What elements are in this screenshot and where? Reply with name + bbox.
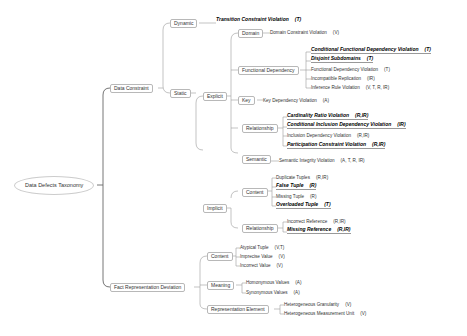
- leaf-incorrect-value: Incorrect Value(V): [240, 262, 283, 269]
- leaf-participation-constraint-violation: Participation Constraint Violation(R,IR): [287, 141, 385, 149]
- node-data-constraint[interactable]: Data Constraint: [110, 84, 153, 93]
- node-semantic[interactable]: Semantic: [242, 155, 271, 164]
- node-frd-content[interactable]: Content: [207, 252, 233, 261]
- node-dynamic[interactable]: Dynamic: [170, 19, 197, 28]
- leaf-domain-constraint-violation: Domain Constraint Violation(V): [270, 29, 339, 36]
- leaf-synonymous-values: Synonymous Values(A): [246, 289, 300, 296]
- leaf-heterogeneous-measurement-unit: Heterogeneous Measurement Unit(V): [284, 310, 366, 317]
- node-explicit[interactable]: Explicit: [203, 92, 227, 101]
- leaf-homonymous-values: Homonymous Values(A): [246, 279, 301, 286]
- leaf-heterogeneous-granularity: Heterogeneous Granularity(V): [284, 301, 351, 308]
- node-static[interactable]: Static: [170, 89, 191, 98]
- leaf-conditional-inclusion-dependency-violation: Conditional Inclusion Dependency Violati…: [287, 121, 406, 129]
- leaf-atypical-tuple: Atypical Tuple(V,T): [240, 244, 284, 251]
- node-key[interactable]: Key: [238, 96, 255, 105]
- leaf-transition-constraint-violation: Transition Constraint Violation(T): [216, 16, 301, 23]
- node-implicit-relationship[interactable]: Relationship: [242, 224, 278, 233]
- leaf-false-tuple: False Tuple(R): [276, 182, 316, 190]
- leaf-conditional-functional-dependency-violation: Conditional Functional Dependency Violat…: [311, 46, 431, 54]
- node-representation-element[interactable]: Representation Element: [207, 305, 269, 314]
- leaf-inclusion-dependency-violation: Inclusion Dependency Violation(R,IR): [287, 132, 369, 139]
- node-explicit-relationship[interactable]: Relationship: [242, 124, 278, 133]
- leaf-incompatible-replication: Incompatible Replication(IR): [311, 75, 375, 82]
- leaf-incorrect-reference: Incorrect Reference(R,IR): [287, 218, 346, 225]
- leaf-key-dependency-violation: Key Dependency Violation(A): [263, 97, 329, 104]
- leaf-duplicate-tuples: Duplicate Tuples(R,IR): [276, 174, 328, 181]
- leaf-functional-dependency-violation: Functional Dependency Violation(T): [311, 66, 390, 73]
- node-domain[interactable]: Domain: [238, 29, 263, 38]
- leaf-imprecise-value: Imprecise Value(V): [240, 253, 285, 260]
- node-functional-dependency[interactable]: Functional Dependency: [238, 66, 299, 75]
- root-node[interactable]: Data Defects Taxonomy: [14, 176, 94, 195]
- node-implicit[interactable]: Implicit: [203, 204, 227, 213]
- node-fact-representation-deviation[interactable]: Fact Representation Deviation: [110, 283, 185, 292]
- leaf-inference-rule-violation: Inference Rule Violation(V, T, R, IR): [311, 84, 389, 91]
- leaf-missing-tuple: Missing Tuple(R): [276, 193, 316, 200]
- leaf-missing-reference: Missing Reference(R,IR): [287, 226, 351, 234]
- leaf-overloaded-tuple: Overloaded Tuple(T): [276, 201, 331, 209]
- node-meaning[interactable]: Meaning: [207, 281, 234, 290]
- node-implicit-content[interactable]: Content: [242, 188, 268, 197]
- leaf-semantic-integrity-violation: Semantic Integrity Violation(A, T, R, IR…: [279, 157, 365, 164]
- leaf-disjoint-subdomains: Disjoint Subdomains(T): [311, 55, 373, 63]
- leaf-cardinality-ratio-violation: Cardinality Ratio Violation(R,IR): [287, 112, 368, 120]
